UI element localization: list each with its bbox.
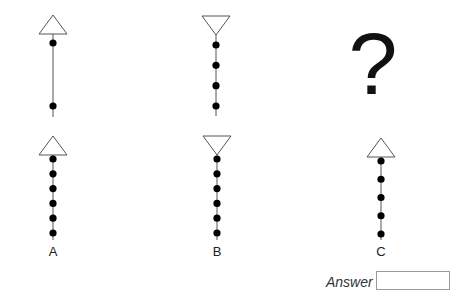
sequence-figure-1	[39, 15, 67, 117]
dot	[212, 62, 219, 69]
triangle-up-icon	[367, 138, 395, 157]
answer-label: Answer	[326, 274, 373, 290]
triangle-up-icon	[39, 15, 67, 34]
dot	[49, 229, 56, 236]
dot	[377, 194, 384, 201]
dot	[213, 200, 220, 207]
answer-input[interactable]	[376, 271, 450, 290]
dot	[377, 157, 384, 164]
dot	[49, 155, 56, 162]
sequence-figure-2	[202, 16, 230, 116]
dot	[49, 215, 56, 222]
option-c-label[interactable]: C	[366, 244, 396, 259]
question-mark: ?	[347, 20, 399, 108]
dot	[213, 170, 220, 177]
triangle-down-icon	[202, 16, 230, 35]
dot	[49, 200, 56, 207]
option-b-label[interactable]: B	[202, 244, 232, 259]
dot	[49, 102, 56, 109]
dot	[49, 170, 56, 177]
dot	[213, 155, 220, 162]
option-c-figure[interactable]	[367, 138, 395, 240]
dot	[212, 41, 219, 48]
option-a-figure[interactable]	[39, 136, 67, 240]
dot	[213, 215, 220, 222]
dot	[213, 229, 220, 236]
dot	[377, 212, 384, 219]
option-a-label[interactable]: A	[38, 244, 68, 259]
triangle-up-icon	[39, 136, 67, 155]
dot	[212, 102, 219, 109]
dot	[377, 230, 384, 237]
dot	[49, 39, 56, 46]
dot	[377, 176, 384, 183]
dot	[49, 185, 56, 192]
option-b-figure[interactable]	[203, 136, 231, 240]
dot	[213, 185, 220, 192]
triangle-down-icon	[203, 136, 231, 155]
dot	[212, 82, 219, 89]
